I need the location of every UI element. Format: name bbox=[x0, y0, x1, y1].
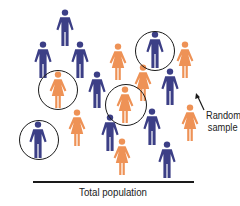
random-sample-label-line2: sample bbox=[208, 121, 240, 133]
population-baseline bbox=[33, 181, 194, 183]
sampling-diagram: Random sample Total population bbox=[0, 0, 240, 206]
arrow-icon bbox=[0, 0, 240, 206]
total-population-label: Total population bbox=[69, 186, 157, 198]
random-sample-label-line1: Random bbox=[206, 109, 240, 121]
random-sample-label: Random sample bbox=[206, 109, 240, 133]
